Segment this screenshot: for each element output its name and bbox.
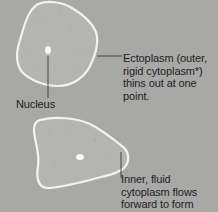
amoeba-cell-bottom <box>34 118 128 188</box>
nucleus-bottom <box>76 154 84 160</box>
inner-cytoplasm-label: Inner, fluid cytoplasm flows forward to … <box>121 173 218 211</box>
nucleus-label: Nucleus <box>16 98 55 111</box>
ectoplasm-label: Ectoplasm (outer, rigid cytoplasm*) thin… <box>123 52 218 102</box>
nucleus-top <box>45 46 51 54</box>
amoeba-cell-top <box>17 2 97 86</box>
